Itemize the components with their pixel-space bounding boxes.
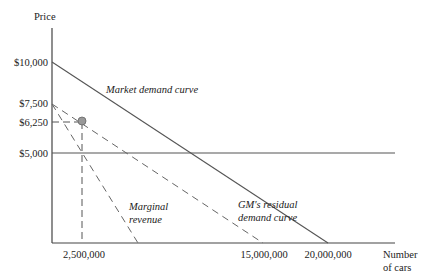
residual-demand-label-line1: GM's residual (238, 199, 297, 210)
y-tick-6250: $6,250 (19, 117, 48, 128)
marginal-revenue-label-line2: revenue (129, 214, 162, 225)
marginal-revenue-label-line1: Marginal (128, 201, 168, 212)
y-axis-title: Price (34, 11, 56, 22)
x-tick-2500000: 2,500,000 (63, 249, 105, 260)
y-tick-10000: $10,000 (14, 57, 48, 68)
chart: Price $10,000 $7,500 $6,250 $5,000 2,500… (0, 0, 425, 280)
market-demand-label: Market demand curve (105, 84, 198, 95)
x-tick-20000000: 20,000,000 (304, 249, 351, 260)
optimum-point-marker (78, 117, 86, 125)
marginal-revenue-curve (52, 104, 138, 243)
x-tick-15000000: 15,000,000 (240, 249, 287, 260)
residual-demand-label-line2: demand curve (238, 212, 298, 223)
y-tick-7500: $7,500 (19, 98, 48, 109)
y-tick-5000: $5,000 (19, 148, 48, 159)
x-axis-title-line1: Number (383, 249, 418, 260)
x-axis-title-line2: of cars (383, 262, 411, 273)
chart-canvas: Price $10,000 $7,500 $6,250 $5,000 2,500… (0, 0, 425, 280)
